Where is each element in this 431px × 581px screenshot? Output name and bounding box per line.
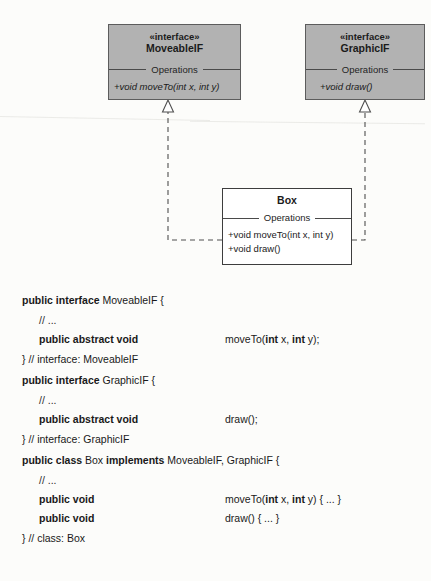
uml-class-box-header: Box [223,189,351,206]
code-line: public class Box implements MoveableIF, … [22,450,422,471]
code-line: } // class: Box [22,528,422,549]
operations-compartment-divider: Operations [223,210,351,225]
stereotype-label: «interface» [109,31,240,42]
realization-moveableif [168,112,222,240]
java-code-listing: public interface MoveableIF {// ...publi… [22,290,422,549]
code-line-declaration: // ... [22,474,57,486]
code-line: public voiddraw() { ... } [22,509,422,528]
code-line-declaration: public interface GraphicIF { [22,374,155,386]
realization-graphicif [352,112,365,240]
operations-compartment-label: Operations [146,62,202,77]
code-line-declaration: public class Box implements MoveableIF, … [22,454,279,466]
code-line: } // interface: GraphicIF [22,429,422,450]
operation-entry: +void moveTo(int x, int y) [114,80,240,94]
code-line-declaration: public void [22,493,94,505]
code-line-declaration: } // interface: MoveableIF [22,353,138,365]
code-line: // ... [22,471,422,490]
realization-moveableif-line [168,112,222,240]
realization-graphicif-line [352,112,365,240]
operations-compartment-label: Operations [337,62,393,77]
operations-compartment-divider: Operations [306,62,424,77]
uml-interface-moveableif-operations: +void moveTo(int x, int y) [109,77,240,94]
code-line-declaration: // ... [22,394,57,406]
code-line-signature: moveTo(int x, int y) { ... } [225,490,341,509]
code-line-declaration: } // interface: GraphicIF [22,433,129,445]
uml-class-box[interactable]: Box Operations +void moveTo(int x, int y… [222,188,352,265]
code-line-declaration: public interface MoveableIF { [22,294,164,306]
uml-class-box-operations: +void moveTo(int x, int y) +void draw() [223,225,351,256]
code-line: public abstract voidmoveTo(int x, int y)… [22,330,422,349]
operations-compartment-divider: Operations [109,62,240,77]
code-line-signature: draw(); [225,410,258,429]
hollow-triangle-arrowhead-moveableif [163,100,174,112]
uml-interface-graphicif[interactable]: «interface» GraphicIF Operations +void d… [305,24,425,100]
code-line-declaration: } // class: Box [22,532,85,544]
code-line: // ... [22,311,422,330]
code-line-signature: moveTo(int x, int y); [225,330,320,349]
code-line: // ... [22,391,422,410]
uml-interface-graphicif-operations: +void draw() [306,77,424,94]
uml-interface-graphicif-header: «interface» GraphicIF [306,25,424,55]
interface-name-label: GraphicIF [306,42,424,54]
stereotype-label: «interface» [306,31,424,42]
class-name-label: Box [223,194,351,206]
code-line-declaration: public void [22,512,94,524]
uml-interface-moveableif-header: «interface» MoveableIF [109,25,240,55]
code-line: } // interface: MoveableIF [22,349,422,370]
code-line-declaration: public abstract void [22,413,138,425]
page-canvas: «interface» MoveableIF Operations +void … [0,0,431,581]
code-line: public voidmoveTo(int x, int y) { ... } [22,490,422,509]
operation-entry: +void draw() [228,242,351,256]
code-line-declaration: public abstract void [22,333,138,345]
uml-interface-moveableif[interactable]: «interface» MoveableIF Operations +void … [108,24,241,100]
code-line-signature: draw() { ... } [225,509,279,528]
code-line-declaration: // ... [22,314,57,326]
code-line: public interface GraphicIF { [22,370,422,391]
code-line: public abstract voiddraw(); [22,410,422,429]
hollow-triangle-arrowhead-graphicif [360,100,371,112]
code-line: public interface MoveableIF { [22,290,422,311]
operation-entry: +void draw() [320,80,424,94]
operation-entry: +void moveTo(int x, int y) [228,228,351,242]
operations-compartment-label: Operations [259,210,315,225]
interface-name-label: MoveableIF [109,42,240,54]
